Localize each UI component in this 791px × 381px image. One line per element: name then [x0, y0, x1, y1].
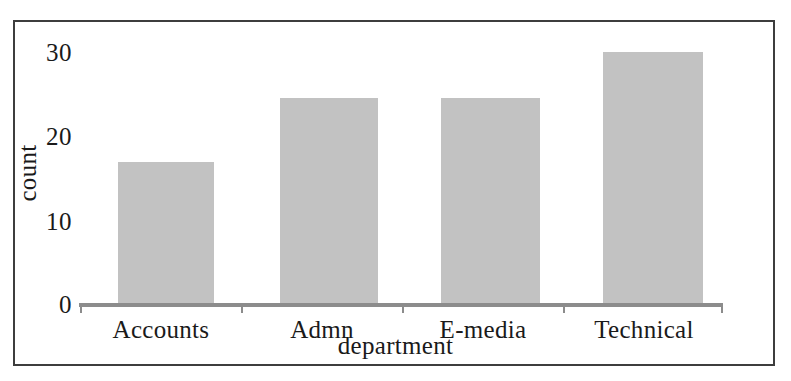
y-axis-tick-30: 30	[22, 40, 72, 65]
x-axis-tick	[241, 303, 243, 313]
x-axis-title: department	[0, 332, 791, 360]
bar-chart-figure: 30 20 10 0 Accounts Admn E-media Technic…	[0, 0, 791, 381]
bar-e-media	[441, 98, 540, 305]
x-axis-line	[79, 303, 723, 307]
y-axis-tick-0: 0	[22, 292, 72, 317]
bar-technical	[603, 52, 703, 305]
y-axis-tick-label: 0	[28, 292, 72, 317]
x-axis-tick	[402, 303, 404, 313]
plot-area: 30 20 10 0 Accounts Admn E-media Technic…	[0, 0, 791, 381]
bar-accounts	[118, 162, 214, 305]
bar-admn	[280, 98, 378, 305]
y-axis-title: count	[15, 127, 41, 219]
y-axis-tick-label: 30	[28, 40, 72, 65]
x-axis-tick	[80, 303, 82, 313]
x-axis-tick	[721, 303, 723, 313]
x-axis-tick	[563, 303, 565, 313]
